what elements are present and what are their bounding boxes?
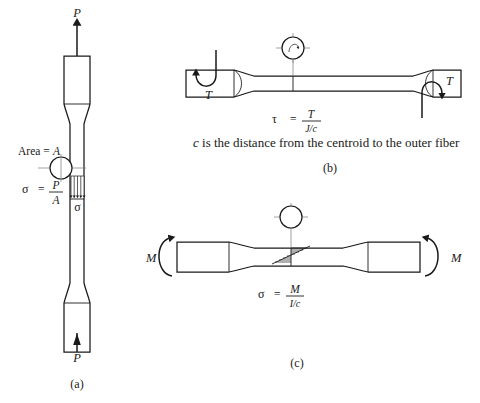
torque-left-label: T <box>205 88 213 102</box>
area-label: Area = <box>18 145 50 157</box>
axial-force-bottom-label: P <box>72 351 81 365</box>
torsion-note: c is the distance from the centroid to t… <box>193 135 460 150</box>
bending-formula-denominator: I/c <box>289 298 301 309</box>
torsion-formula-tau: τ <box>272 112 277 126</box>
uniform-stress-distribution <box>70 176 84 199</box>
bending-formula-equals: = <box>274 288 281 300</box>
axial-stress-distribution-label: σ <box>74 200 81 214</box>
torque-right-label: T <box>446 74 454 88</box>
bending-formula-sigma: σ <box>258 287 265 301</box>
area-symbol: A <box>52 145 61 157</box>
torsion-note-text: is the distance from the centroid to the… <box>199 135 460 150</box>
axial-formula-numerator: P <box>51 179 59 191</box>
panel-a-label: (a) <box>70 377 83 391</box>
moment-left-label: M <box>145 251 157 265</box>
axial-formula-denominator: A <box>51 194 60 206</box>
axial-formula-equals: = <box>38 183 45 195</box>
panel-c-label: (c) <box>290 356 303 370</box>
bending-formula-numerator: M <box>289 283 301 295</box>
moment-right-label: M <box>450 251 462 265</box>
axial-formula-sigma: σ <box>22 182 29 196</box>
panel-b-label: (b) <box>323 161 337 175</box>
torsion-formula-equals: = <box>290 113 297 125</box>
figure-canvas: P σ <box>0 0 480 403</box>
stress-modes-figure: P σ <box>0 0 480 403</box>
torsion-formula-denominator: J/c <box>305 123 317 134</box>
axial-force-top-label: P <box>72 6 81 20</box>
